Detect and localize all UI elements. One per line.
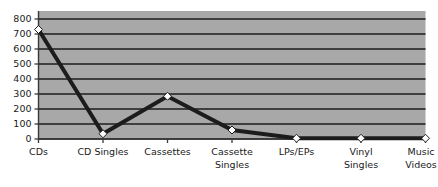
chart-container: 0100200300400500600700800 CDsCD SinglesC… [0, 0, 438, 187]
x-tick-label-line: CDs [29, 146, 48, 157]
x-tick-label-line: Videos [405, 159, 437, 170]
x-tick-label-line: LPs/EPs [279, 146, 315, 157]
y-tick-label: 100 [13, 118, 31, 129]
y-tick-label: 800 [13, 13, 31, 24]
y-tick-label: 300 [13, 88, 31, 99]
y-tick-label: 600 [13, 43, 31, 54]
x-tick-label-line: Music [407, 146, 434, 157]
line-chart: 0100200300400500600700800 CDsCD SinglesC… [0, 0, 438, 187]
x-tick-label-line: Vinyl [349, 146, 372, 157]
x-tick-label: CassetteSingles [211, 146, 253, 170]
x-tick-label: MusicVideos [405, 146, 437, 170]
y-tick-label: 500 [13, 58, 31, 69]
x-tick-label-line: Singles [215, 159, 249, 170]
x-tick-label-line: CD Singles [77, 146, 128, 157]
x-tick-label-line: Cassettes [144, 146, 190, 157]
y-tick-labels: 0100200300400500600700800 [13, 13, 31, 144]
x-tick-label: CDs [29, 146, 48, 157]
y-tick-label: 0 [25, 133, 31, 144]
x-tick-label-line: Singles [344, 159, 378, 170]
y-tick-label: 200 [13, 103, 31, 114]
x-tick-label-line: Cassette [211, 146, 253, 157]
x-tick-label: Cassettes [144, 146, 190, 157]
x-tick-label: LPs/EPs [279, 146, 315, 157]
y-tick-label: 700 [13, 28, 31, 39]
x-tick-label: CD Singles [77, 146, 128, 157]
y-tick-label: 400 [13, 73, 31, 84]
